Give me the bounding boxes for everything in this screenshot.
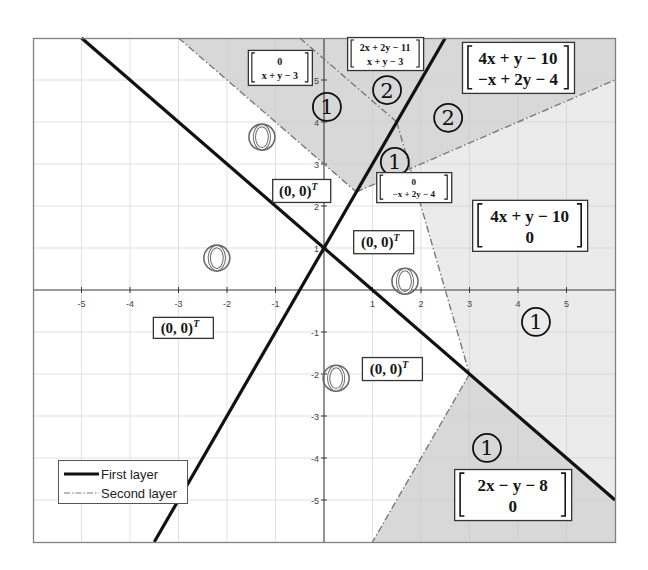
matrix-row-1: 2x − y − 8 (477, 476, 547, 495)
vector-body: (0, 0) (161, 320, 194, 337)
x-tick-label: 1 (370, 299, 375, 309)
transpose-superscript: T (311, 181, 318, 192)
matrix-row-2: x + y − 3 (367, 56, 403, 67)
matrix-row-1: 2x + 2y − 11 (360, 42, 411, 53)
y-tick-label: -4 (311, 454, 319, 464)
x-tick-label: -3 (174, 299, 182, 309)
y-tick-label: -1 (311, 328, 319, 338)
vector-body: (0, 0) (370, 361, 403, 378)
x-tick-label: -4 (126, 299, 134, 309)
output-matrix-label: 4x + y − 100 (473, 200, 588, 251)
y-tick-label: -5 (311, 496, 319, 506)
y-tick-label: -2 (311, 370, 319, 380)
matrix-row-1: 0 (411, 177, 416, 187)
output-matrix-label: 2x + 2y − 11x + y − 3 (348, 38, 424, 71)
legend: First layer Second layer (59, 461, 188, 504)
vector-body: (0, 0) (361, 234, 394, 251)
matrix-row-2: −x + 2y − 4 (393, 189, 436, 199)
x-tick-label: 4 (515, 299, 520, 309)
output-matrix-label: 0−x + 2y − 4 (377, 173, 452, 203)
x-tick-label: 3 (467, 299, 472, 309)
output-vector-label: (0, 0)T (153, 317, 213, 338)
output-matrix-label: 0x + y − 3 (248, 50, 312, 85)
legend-second-layer-label: Second layer (101, 486, 178, 501)
y-tick-label: 1 (314, 244, 319, 254)
y-tick-label: -3 (311, 412, 319, 422)
output-matrix-label: 4x + y − 10−x + 2y − 4 (463, 42, 575, 93)
transpose-superscript: T (402, 359, 409, 370)
count-value: 2 (380, 79, 393, 103)
transpose-superscript: T (393, 232, 400, 243)
matrix-row-2: 0 (525, 228, 534, 247)
x-tick-label: 5 (564, 299, 569, 309)
region-diagram: -5-4-3-2-112345-5-4-3-2-112345 122111 0x… (0, 0, 648, 570)
output-vector-label: (0, 0)T (362, 358, 422, 381)
matrix-row-1: 4x + y − 10 (479, 49, 558, 68)
matrix-row-1: 0 (277, 56, 282, 67)
output-vector-label: (0, 0)T (273, 179, 331, 202)
y-tick-label: 5 (314, 76, 319, 86)
x-tick-label: -1 (271, 299, 279, 309)
legend-first-layer-label: First layer (101, 467, 159, 482)
count-value: 1 (480, 436, 493, 460)
x-tick-label: 2 (418, 299, 423, 309)
x-tick-label: -5 (77, 299, 85, 309)
x-tick-label: -2 (223, 299, 231, 309)
y-tick-label: 3 (314, 160, 319, 170)
count-value: 1 (529, 310, 542, 334)
count-value: 1 (320, 95, 333, 119)
count-value: 2 (441, 106, 454, 130)
vector-body: (0, 0) (279, 183, 312, 200)
matrix-row-2: x + y − 3 (262, 70, 298, 81)
transpose-superscript: T (193, 318, 200, 329)
count-value: 1 (388, 150, 401, 174)
matrix-row-2: −x + 2y − 4 (478, 70, 559, 89)
matrix-row-2: 0 (508, 497, 517, 516)
output-matrix-label: 2x − y − 80 (455, 470, 572, 521)
matrix-row-1: 4x + y − 10 (490, 207, 569, 226)
output-vector-label: (0, 0)T (354, 231, 414, 254)
